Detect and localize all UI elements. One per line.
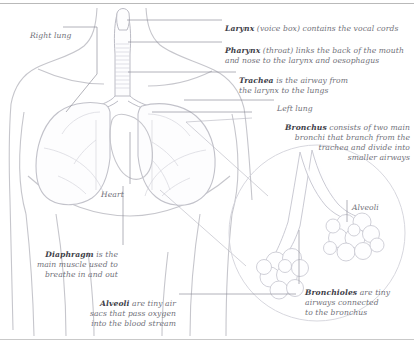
right-lung xyxy=(36,103,110,205)
label-left-lung: Left lung xyxy=(277,94,313,114)
alveoli-cluster-right xyxy=(324,213,385,261)
label-bronchus-term: Bronchus xyxy=(285,123,327,132)
label-diaphragm-term: Diaphragm xyxy=(45,250,93,259)
label-bronchioles: Bronchioles are tiny airways connected t… xyxy=(305,278,410,318)
label-bronchioles-term: Bronchioles xyxy=(305,288,357,297)
label-pharynx: Pharynx (throat) links the back of the m… xyxy=(225,36,413,66)
label-bronchus: Bronchus consists of two main bronchi th… xyxy=(214,113,410,163)
label-alveoli-lower-term: Alveoli xyxy=(100,299,130,308)
label-larynx-term: Larynx xyxy=(225,24,254,33)
label-diaphragm: Diaphragm is the main muscle used to bre… xyxy=(20,240,118,280)
label-trachea: Trachea is the airway from the larynx to… xyxy=(239,66,414,96)
label-right-lung: Right lung xyxy=(30,21,71,41)
label-larynx-text: (voice box) contains the vocal cords xyxy=(254,24,398,33)
label-right-lung-term: Right lung xyxy=(30,31,71,40)
label-left-lung-term: Left lung xyxy=(277,104,313,113)
label-trachea-term: Trachea xyxy=(239,76,274,85)
label-alveoli-lower: Alveoli are tiny air sacs that pass oxyg… xyxy=(28,289,176,329)
label-larynx: Larynx (voice box) contains the vocal co… xyxy=(225,14,413,34)
trachea xyxy=(97,9,152,112)
label-heart: Heart xyxy=(101,180,124,200)
alveoli-cluster-left xyxy=(257,249,309,300)
label-alveoli-inset: Alveoli xyxy=(352,193,379,213)
label-pharynx-term: Pharynx xyxy=(225,46,260,55)
left-lung xyxy=(138,104,215,206)
label-heart-term: Heart xyxy=(101,190,124,199)
label-alveoli-inset-term: Alveoli xyxy=(352,203,379,212)
respiratory-system-diagram: .body { fill:none; stroke:#c6c6cc; strok… xyxy=(0,0,414,344)
